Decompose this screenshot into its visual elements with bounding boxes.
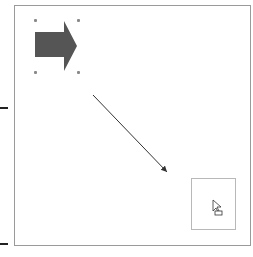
selection-handle-bottom-right[interactable] xyxy=(77,71,80,74)
selection-handle-bottom-left[interactable] xyxy=(34,71,37,74)
drop-target-box[interactable] xyxy=(191,178,236,230)
right-block-arrow-shape[interactable] xyxy=(35,21,77,71)
selection-handle-top-right[interactable] xyxy=(77,19,80,22)
arrow-connector-line[interactable] xyxy=(93,95,167,172)
selection-handle-top-left[interactable] xyxy=(34,19,37,22)
